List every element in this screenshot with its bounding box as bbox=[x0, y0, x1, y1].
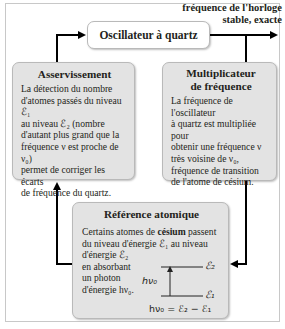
multiplicateur-title-line1: Multiplicateur bbox=[171, 67, 271, 80]
photon-energy-label: hν₀ bbox=[142, 275, 157, 286]
text-line: permet de corriger les écarts bbox=[21, 164, 128, 187]
multiplicateur-title-line2: de fréquence bbox=[171, 80, 271, 93]
text-fragment: passent bbox=[186, 226, 217, 237]
text-line: obtenir une fréquence ν bbox=[171, 141, 271, 153]
level-e2-label: ℰ₂ bbox=[205, 260, 215, 271]
oscillator-box: Oscillateur à quartz bbox=[87, 21, 210, 49]
text-line: au niveau ℰ₂ (nombre bbox=[21, 118, 128, 130]
reference-title: Référence atomique bbox=[82, 208, 221, 221]
arrow-asserv-to-osc bbox=[57, 35, 84, 62]
multiplicateur-box: Multiplicateur de fréquence La fréquence… bbox=[162, 62, 277, 181]
output-label-line1: fréquence de l'horloge bbox=[182, 2, 282, 14]
energy-level-diagram: ℰ₂ ℰ₁ hν₀ hν₀ = ℰ₂ − ℰ₁ bbox=[141, 258, 226, 318]
bold-cesium: césium bbox=[157, 226, 185, 237]
level-e1-label: ℰ₁ bbox=[205, 289, 215, 300]
text-line: de l'atome de césium. bbox=[171, 176, 271, 188]
reference-box: Référence atomique Certains atomes de cé… bbox=[72, 202, 229, 319]
arrow-mult-to-ref bbox=[232, 181, 246, 264]
oscillator-title: Oscillateur à quartz bbox=[99, 29, 197, 41]
asservissement-title: Asservissement bbox=[21, 68, 128, 81]
text-line: fréquence ν est proche de ν₀) bbox=[21, 141, 128, 164]
asservissement-text: La détection du nombre d'atomes passés d… bbox=[21, 83, 128, 199]
text-line: fréquence de transition bbox=[171, 165, 271, 177]
text-line: La détection du nombre bbox=[21, 83, 128, 95]
energy-equation: hν₀ = ℰ₂ − ℰ₁ bbox=[149, 303, 211, 314]
text-line: du niveau d'énergie ℰ₁ au niveau bbox=[82, 238, 221, 250]
text-line: d'atomes passés du niveau ℰ₁ bbox=[21, 95, 128, 118]
text-fragment: Certains atomes de bbox=[82, 226, 157, 237]
asservissement-box: Asservissement La détection du nombre d'… bbox=[12, 62, 135, 180]
text-line: d'autant plus grand que la bbox=[21, 129, 128, 141]
text-line: très voisine de ν₀, bbox=[171, 153, 271, 165]
text-line: La fréquence de l'oscillateur bbox=[171, 95, 271, 118]
text-line: à quartz est multipliée pour bbox=[171, 118, 271, 141]
text-line: de fréquence du quartz. bbox=[21, 187, 128, 199]
text-line: Certains atomes de césium passent bbox=[82, 226, 221, 238]
multiplicateur-text: La fréquence de l'oscillateur à quartz e… bbox=[171, 95, 271, 188]
